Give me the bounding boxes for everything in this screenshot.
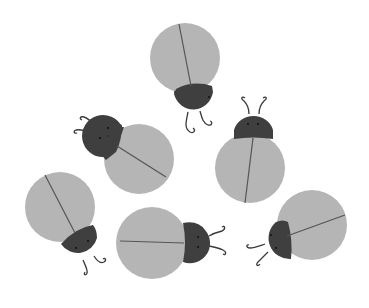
antenna-icon	[257, 252, 268, 265]
antenna-icon	[209, 246, 226, 255]
ladybug-bottom-middle	[116, 207, 226, 279]
ladybug-right-middle	[215, 97, 285, 203]
eye	[87, 240, 89, 242]
ladybugs-canvas	[0, 0, 369, 308]
antenna-icon	[200, 111, 212, 125]
antenna-icon	[94, 256, 106, 263]
eye	[75, 247, 77, 249]
antenna-icon	[242, 97, 249, 114]
ladybug-head	[269, 221, 292, 260]
ladybug-shell	[215, 133, 285, 203]
eye	[197, 236, 199, 238]
eye	[208, 96, 210, 98]
ladybug-illustration	[0, 0, 369, 308]
antenna-icon	[186, 112, 194, 133]
antenna-icon	[83, 260, 87, 275]
ladybug-bottom-right	[247, 190, 347, 265]
eye	[257, 123, 259, 125]
eye	[270, 234, 272, 236]
ladybug-head	[234, 116, 273, 139]
eye	[275, 247, 277, 249]
eye	[197, 246, 199, 248]
eye	[107, 135, 109, 137]
ladybug-bottom-left	[25, 172, 106, 275]
antenna-icon	[247, 244, 265, 248]
ladybug-top	[150, 23, 220, 133]
ladybug-left-middle	[74, 115, 174, 194]
ladybug-head	[174, 84, 213, 110]
eye	[247, 123, 249, 125]
antenna-icon	[259, 97, 266, 114]
eye	[107, 127, 109, 129]
ladybug-head	[183, 222, 210, 263]
eye	[99, 137, 101, 139]
antenna-icon	[209, 226, 225, 236]
